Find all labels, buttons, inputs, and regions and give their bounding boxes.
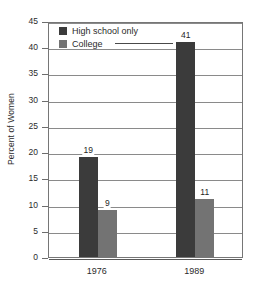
plot-area: 1994111 High school only College xyxy=(48,22,243,258)
legend-label-college: College xyxy=(72,39,103,49)
bar-value-label: 11 xyxy=(199,187,210,197)
y-axis-tick-label: 15 xyxy=(29,173,38,183)
y-axis-tick-label: 35 xyxy=(29,68,38,78)
x-axis-tick-label: 1976 xyxy=(87,266,107,276)
bar[interactable]: 9 xyxy=(98,210,117,257)
legend-leader-line xyxy=(115,43,173,44)
bar[interactable]: 11 xyxy=(195,199,214,257)
legend-item-college[interactable]: College xyxy=(59,38,189,50)
legend: High school only College xyxy=(59,25,189,51)
bar[interactable]: 19 xyxy=(79,157,98,257)
y-axis-tick-label: 25 xyxy=(29,121,38,131)
legend-swatch-icon-high-school-only xyxy=(59,27,67,35)
x-axis-tick-label: 1989 xyxy=(184,266,204,276)
legend-swatch-icon-college xyxy=(59,40,67,48)
bars-layer: 1994111 xyxy=(49,23,242,257)
y-axis-tick-label: 30 xyxy=(29,95,38,105)
legend-label-high-school-only: High school only xyxy=(72,26,138,36)
y-axis-tick-label: 5 xyxy=(33,226,38,236)
x-axis-ticks: 19761989 xyxy=(48,258,243,284)
bar-chart: Percent of Women 051015202530354045 1994… xyxy=(0,0,256,288)
y-axis-tick-label: 45 xyxy=(29,16,38,26)
y-axis-tick-label: 10 xyxy=(29,200,38,210)
bar-value-label: 19 xyxy=(83,145,94,155)
legend-item-high-school-only[interactable]: High school only xyxy=(59,25,189,37)
y-axis-ticks: 051015202530354045 xyxy=(0,22,48,258)
bar-group: 4111 xyxy=(176,23,214,257)
y-axis-tick-label: 0 xyxy=(33,252,38,262)
bar-value-label: 9 xyxy=(104,198,111,208)
y-axis-tick-label: 20 xyxy=(29,147,38,157)
bar[interactable]: 41 xyxy=(176,42,195,257)
y-axis-tick-label: 40 xyxy=(29,42,38,52)
bar-group: 199 xyxy=(79,23,117,257)
